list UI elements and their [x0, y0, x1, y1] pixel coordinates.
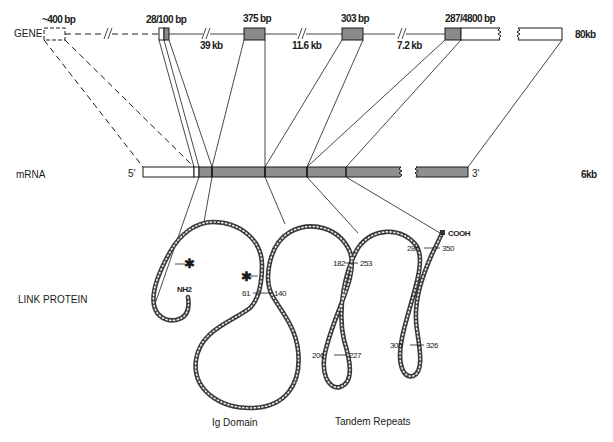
protein-chain	[153, 222, 442, 408]
exon-5-coding	[445, 28, 461, 40]
exon-4	[342, 28, 363, 40]
mrna-exon-2	[199, 167, 212, 177]
intron-1-size: 39 kb	[200, 40, 223, 51]
gene-structure-diagram: GENE ~400 bp 28/100 bp 39 kb 375 bp	[0, 0, 613, 442]
exon-2-coding	[164, 28, 169, 40]
intron-3-size: 7.2 kb	[397, 40, 422, 51]
protein-row-label: LINK PROTEIN	[18, 294, 87, 305]
exon-mapping-lines	[44, 40, 562, 167]
break-mark-icon	[398, 28, 406, 39]
exon-5-utr-a	[461, 28, 501, 40]
glycosylation-star-icon: ✱	[175, 256, 195, 271]
break-mark-icon	[104, 28, 112, 39]
exon-5-label: 287/4800 bp	[445, 13, 496, 24]
n-terminus-label: NH2	[177, 285, 193, 294]
residue-marker-61-140: 61 140	[242, 289, 287, 298]
c-terminus-bead	[440, 230, 445, 235]
exon-4-label: 303 bp	[341, 13, 370, 24]
residue-253: 253	[360, 259, 373, 268]
residue-350: 350	[442, 244, 455, 253]
break-mark-icon	[298, 28, 306, 39]
residue-marker-305-326: 305 326	[390, 341, 439, 350]
glycosylation-star-icon: ✱	[241, 269, 258, 284]
svg-text:✱: ✱	[184, 256, 195, 271]
residue-326: 326	[426, 341, 439, 350]
residue-140: 140	[274, 289, 287, 298]
three-prime-label: 3'	[472, 168, 480, 179]
exon-5-utr-b	[517, 28, 562, 40]
residue-227: 227	[349, 351, 362, 360]
gene-row: GENE ~400 bp 28/100 bp 39 kb 375 bp	[14, 13, 596, 51]
residue-206: 206	[312, 351, 325, 360]
mrna-exon-4	[265, 167, 307, 177]
mrna-5-utr	[143, 167, 194, 177]
residue-61: 61	[242, 289, 251, 298]
gene-size-label: 80kb	[575, 29, 596, 40]
mrna-exon-2-utr	[194, 167, 199, 177]
gene-row-label: GENE	[14, 28, 43, 39]
five-prime-label: 5'	[128, 168, 136, 179]
intron-2-size: 11.6 kb	[292, 40, 322, 51]
exon-1-label: ~400 bp	[42, 14, 76, 25]
exon-2-label: 28/100 bp	[146, 14, 187, 25]
mrna-row: mRNA 5' 3' 6kb	[16, 167, 597, 180]
mrna-exon-5b	[415, 167, 468, 177]
break-mark-icon	[202, 28, 210, 39]
link-protein: LINK PROTEIN NH2 ✱ ✱ COOH 61 140 182 253	[18, 222, 471, 428]
mrna-size-label: 6kb	[581, 169, 597, 180]
exon-1-dashed	[44, 28, 65, 40]
residue-305: 305	[390, 341, 403, 350]
svg-text:✱: ✱	[241, 269, 252, 284]
c-terminus-label: COOH	[448, 229, 471, 238]
exon-2-utr	[159, 28, 164, 40]
mrna-exon-5a	[307, 167, 402, 177]
ig-domain-caption: Ig Domain	[212, 417, 258, 428]
exon-3	[244, 28, 265, 40]
domain-mapping-lines	[155, 177, 440, 304]
residue-marker-206-227: 206 227	[312, 351, 362, 360]
tandem-repeats-caption: Tandem Repeats	[335, 416, 411, 427]
exon-3-label: 375 bp	[243, 13, 272, 24]
residue-182: 182	[333, 259, 346, 268]
residue-280: 280	[407, 244, 420, 253]
mrna-exon-3	[212, 167, 265, 177]
mrna-row-label: mRNA	[16, 169, 46, 180]
